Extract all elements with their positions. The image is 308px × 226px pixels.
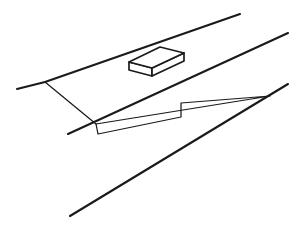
canvas-background <box>0 0 308 226</box>
sketch-svg <box>0 0 308 226</box>
drawing-canvas <box>0 0 308 226</box>
